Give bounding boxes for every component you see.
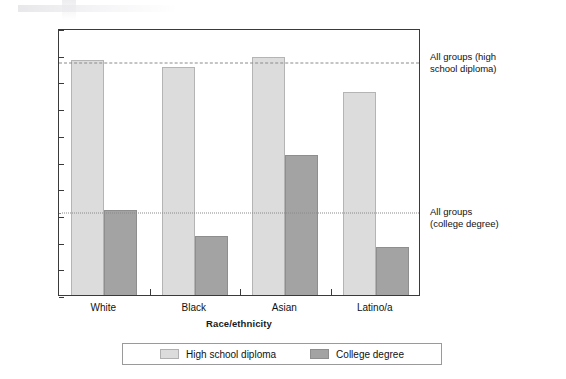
- y-axis-tick-mark: [59, 110, 64, 111]
- annotation-line: All groups (high: [430, 51, 560, 63]
- scan-artifact-blotch: [62, 0, 76, 20]
- x-axis-tick-mark: [150, 289, 151, 295]
- chart-legend: High school diplomaCollege degree: [122, 343, 442, 365]
- reference-line-high-school: [59, 63, 419, 64]
- legend-label: College degree: [336, 349, 404, 360]
- x-axis-tick-mark: [240, 289, 241, 295]
- annotation-high-school-diploma: All groups (highschool diploma): [430, 51, 560, 74]
- bar-white-college-degree: [104, 210, 137, 295]
- legend-label: High school diploma: [186, 349, 276, 360]
- legend-swatch-hs: [160, 349, 179, 359]
- bar-white-high-school-diploma: [71, 60, 104, 295]
- x-axis-tick-label: Black: [149, 302, 239, 313]
- y-axis-tick-mark: [59, 297, 64, 298]
- y-axis-tick-labels: 0102030405060708090100: [0, 0, 58, 379]
- x-axis-tick-label: White: [58, 302, 148, 313]
- y-axis-tick-mark: [59, 244, 64, 245]
- annotation-line: school diploma): [430, 63, 560, 75]
- y-axis-tick-mark: [59, 57, 64, 58]
- bar-latinoa-high-school-diploma: [343, 92, 376, 295]
- y-axis-tick-mark: [59, 30, 64, 31]
- reference-line-college: [59, 212, 419, 213]
- y-axis-tick-marks: [59, 30, 69, 295]
- x-axis-title: Race/ethnicity: [58, 318, 420, 329]
- legend-entry: High school diploma: [160, 349, 276, 360]
- bar-black-high-school-diploma: [162, 67, 195, 295]
- y-axis-tick-mark: [59, 270, 64, 271]
- y-axis-tick-mark: [59, 137, 64, 138]
- annotation-line: (college degree): [430, 218, 560, 230]
- y-axis-tick-mark: [59, 83, 64, 84]
- legend-swatch-cd: [310, 349, 329, 359]
- y-axis-tick-mark: [59, 190, 64, 191]
- bar-asian-college-degree: [285, 155, 318, 295]
- x-axis-tick-mark: [331, 289, 332, 295]
- legend-entry: College degree: [310, 349, 404, 360]
- bar-latinoa-college-degree: [376, 247, 409, 295]
- bar-asian-high-school-diploma: [252, 57, 285, 295]
- plot-area: [58, 29, 420, 296]
- x-axis-tick-label: Asian: [239, 302, 329, 313]
- annotation-line: All groups: [430, 206, 560, 218]
- y-axis-tick-mark: [59, 164, 64, 165]
- bar-black-college-degree: [195, 236, 228, 295]
- x-axis-tick-label: Latino/a: [330, 302, 420, 313]
- annotation-college-degree: All groups(college degree): [430, 206, 560, 229]
- y-axis-tick-mark: [59, 217, 64, 218]
